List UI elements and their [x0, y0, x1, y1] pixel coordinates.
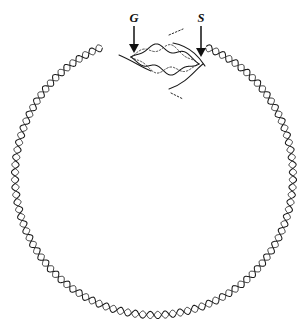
fork-g-label: G	[129, 11, 138, 25]
fork-s-label: S	[198, 11, 205, 25]
figure-background	[0, 0, 308, 333]
figure-canvas: GS	[0, 0, 308, 333]
dna-replication-figure: GS	[0, 0, 308, 333]
